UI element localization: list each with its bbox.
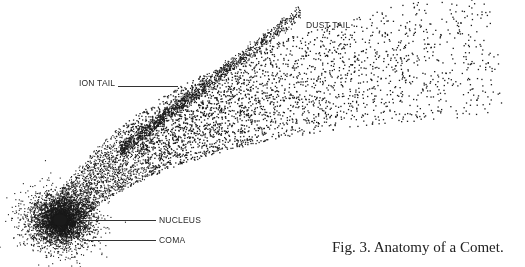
nucleus-label: NUCLEUS bbox=[159, 216, 201, 225]
comet-diagram: ION TAIL DUST TAIL NUCLEUS COMA Fig. 3. … bbox=[0, 0, 525, 267]
coma-label: COMA bbox=[159, 236, 185, 245]
nucleus-leader-line bbox=[74, 220, 156, 221]
ion-tail-label: ION TAIL bbox=[79, 79, 115, 88]
figure-caption: Fig. 3. Anatomy of a Comet. bbox=[332, 240, 504, 255]
ion-tail-leader-line bbox=[118, 86, 178, 87]
dust-tail-label: DUST TAIL bbox=[306, 21, 350, 30]
coma-leader-line bbox=[84, 240, 156, 241]
comet-illustration bbox=[0, 0, 525, 267]
